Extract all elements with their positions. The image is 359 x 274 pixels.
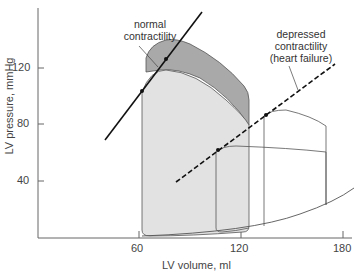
depressed-endsystolic-point-1 bbox=[216, 148, 220, 152]
normal-endsystolic-point-2 bbox=[164, 57, 168, 61]
x-tick-label-180: 180 bbox=[333, 242, 351, 254]
depressed-label-line1: depressed bbox=[256, 28, 346, 40]
depressed-label-line3: (heart failure) bbox=[256, 52, 346, 64]
y-tick-label-80: 80 bbox=[17, 117, 29, 129]
normal-label-line2: contractility bbox=[105, 30, 195, 42]
depressed-annotation-leader bbox=[289, 66, 298, 90]
depressed-loop-dilated bbox=[264, 110, 326, 205]
normal-label-line1: normal bbox=[105, 18, 195, 30]
depressed-endsystolic-point-2 bbox=[264, 113, 268, 117]
depressed-contractility-label: depressed contractility (heart failure) bbox=[256, 28, 346, 64]
x-axis-title: LV volume, ml bbox=[162, 259, 231, 271]
pressure-volume-diagram: 120 80 40 60 120 180 LV volume, ml LV pr… bbox=[0, 0, 359, 274]
y-tick-label-40: 40 bbox=[17, 174, 29, 186]
x-tick-label-120: 120 bbox=[230, 242, 248, 254]
y-axis-title: LV pressure, mmHg bbox=[3, 51, 15, 161]
x-tick-label-60: 60 bbox=[131, 242, 143, 254]
normal-contractility-label: normal contractility bbox=[105, 18, 195, 42]
normal-endsystolic-point-1 bbox=[140, 89, 144, 93]
depressed-label-line2: contractility bbox=[256, 40, 346, 52]
